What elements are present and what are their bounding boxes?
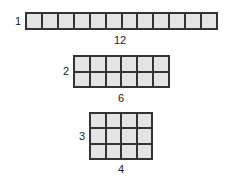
grid-cell xyxy=(90,113,106,128)
grid-cell xyxy=(153,13,169,29)
grid-cell xyxy=(121,128,137,143)
grid-cell xyxy=(42,13,58,29)
column-label: 4 xyxy=(118,163,124,175)
grid-cell xyxy=(106,13,122,29)
row-label: 3 xyxy=(79,130,85,142)
row-label: 1 xyxy=(15,15,21,27)
grid-cell xyxy=(137,128,153,143)
row-label: 2 xyxy=(63,65,69,77)
column-label: 6 xyxy=(118,92,124,104)
grid-cell xyxy=(74,72,90,88)
grid-cell xyxy=(90,128,106,143)
grid-cell xyxy=(185,13,201,29)
grid-array xyxy=(89,112,153,160)
grid-cell xyxy=(122,13,138,29)
grid-cell xyxy=(121,144,137,159)
grid-cell xyxy=(137,13,153,29)
grid-cell xyxy=(201,13,217,29)
grid-cell xyxy=(106,113,122,128)
grid-cell xyxy=(121,56,137,72)
grid-cell xyxy=(137,144,153,159)
grid-cell xyxy=(153,72,169,88)
grid-cell xyxy=(74,56,90,72)
grid-cell xyxy=(90,144,106,159)
grid-cell xyxy=(121,72,137,88)
grid-cell xyxy=(106,144,122,159)
grid-cell xyxy=(90,56,106,72)
grid-cell xyxy=(137,72,153,88)
grid-cell xyxy=(121,113,137,128)
grid-cell xyxy=(106,56,122,72)
grid-cell xyxy=(74,13,90,29)
grid-cell xyxy=(90,13,106,29)
grid-cell xyxy=(90,72,106,88)
grid-cell xyxy=(106,128,122,143)
grid-cell xyxy=(153,56,169,72)
grid-cell xyxy=(137,56,153,72)
grid-cell xyxy=(106,72,122,88)
grid-array xyxy=(73,55,170,88)
grid-cell xyxy=(169,13,185,29)
column-label: 12 xyxy=(114,34,126,46)
grid-cell xyxy=(137,113,153,128)
grid-array xyxy=(25,12,218,30)
grid-cell xyxy=(26,13,42,29)
grid-cell xyxy=(58,13,74,29)
